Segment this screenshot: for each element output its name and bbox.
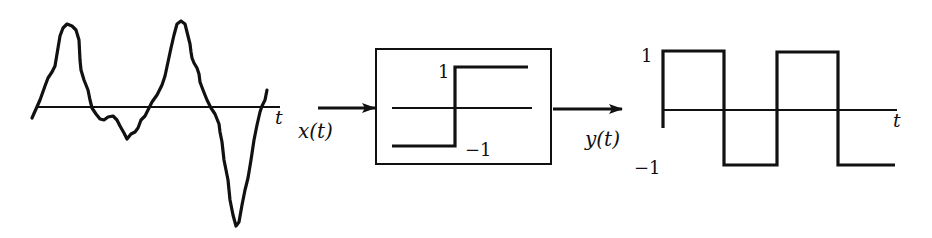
output-signal-label: y(t) xyxy=(584,127,620,151)
block-upper-level-label: 1 xyxy=(438,61,449,82)
input-axis-label: t xyxy=(275,106,283,128)
sign-function-block: 1 −1 xyxy=(376,49,551,164)
diagram-canvas: t x(t) 1 −1 y(t) t 1 −1 xyxy=(0,0,932,238)
input-waveform-plot: t xyxy=(32,21,283,226)
input-signal-label: x(t) xyxy=(298,119,333,143)
output-axis-label: t xyxy=(893,109,901,131)
output-squarewave-curve xyxy=(663,51,895,165)
block-step-curve xyxy=(392,67,528,146)
input-waveform-curve xyxy=(32,21,267,226)
output-squarewave-plot: t 1 −1 xyxy=(634,45,901,178)
output-low-label: −1 xyxy=(634,157,661,178)
block-lower-level-label: −1 xyxy=(465,139,492,160)
output-high-label: 1 xyxy=(641,45,652,66)
